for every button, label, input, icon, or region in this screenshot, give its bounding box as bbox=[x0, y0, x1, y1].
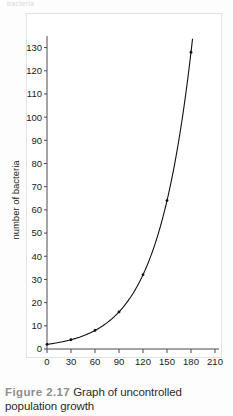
y-axis-title: number of bacteria bbox=[10, 160, 21, 240]
x-tick-label: 150 bbox=[159, 356, 175, 366]
data-point-marker bbox=[190, 51, 193, 54]
y-tick-label: 20 bbox=[31, 297, 42, 308]
y-tick-label: 80 bbox=[31, 158, 42, 169]
x-tick-label: 60 bbox=[90, 356, 101, 366]
y-tick-label: 90 bbox=[31, 135, 42, 146]
growth-curve-chart: 0102030405060708090100110120130 03060901… bbox=[0, 0, 233, 366]
exponential-growth-curve bbox=[47, 39, 193, 345]
figure-caption: Figure 2.17 Graph of uncontrolled popula… bbox=[5, 386, 229, 413]
x-axis-tick-labels: 0306090120150180210 bbox=[44, 356, 223, 366]
y-tick-label: 70 bbox=[31, 181, 42, 192]
y-tick-label: 10 bbox=[31, 320, 42, 331]
data-point-markers bbox=[46, 51, 193, 346]
y-tick-label: 50 bbox=[31, 227, 42, 238]
data-point-marker bbox=[46, 343, 49, 346]
y-tick-label: 60 bbox=[31, 204, 42, 215]
x-tick-label: 120 bbox=[135, 356, 151, 366]
x-tick-label: 0 bbox=[44, 356, 49, 366]
x-tick-label: 210 bbox=[207, 356, 223, 366]
figure-page: bacteria 0102030405060708090100110120130… bbox=[0, 0, 233, 416]
chart-area: 0102030405060708090100110120130 03060901… bbox=[0, 0, 233, 366]
x-tick-label: 90 bbox=[114, 356, 125, 366]
data-point-marker bbox=[70, 338, 73, 341]
y-axis-tick-labels: 0102030405060708090100110120130 bbox=[26, 42, 42, 354]
y-tick-label: 120 bbox=[26, 65, 42, 76]
x-tick-label: 30 bbox=[66, 356, 77, 366]
y-tick-label: 0 bbox=[37, 343, 42, 354]
figure-caption-label: Figure 2.17 bbox=[5, 386, 70, 398]
data-point-marker bbox=[142, 273, 145, 276]
x-tick-label: 180 bbox=[183, 356, 199, 366]
x-axis-ticks bbox=[47, 349, 215, 353]
y-tick-label: 100 bbox=[26, 112, 42, 123]
y-tick-label: 40 bbox=[31, 251, 42, 262]
data-point-marker bbox=[118, 311, 121, 314]
y-tick-label: 130 bbox=[26, 42, 42, 53]
y-tick-label: 30 bbox=[31, 274, 42, 285]
y-tick-label: 110 bbox=[27, 88, 42, 99]
data-point-marker bbox=[166, 199, 169, 202]
data-point-marker bbox=[94, 329, 97, 332]
